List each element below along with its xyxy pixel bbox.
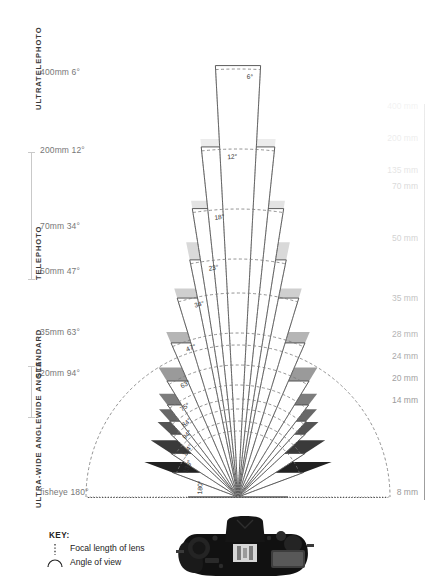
key-title: KEY: — [49, 531, 70, 540]
category-label: TELEPHOTO — [34, 226, 43, 280]
left-focal-label: 200mm 12° — [40, 145, 85, 155]
angle-of-view-diagram: 6°12°18°23°34°47°63°75°84°94°114°139°180… — [0, 0, 435, 586]
right-mm-label: 14 mm — [392, 395, 418, 405]
left-focal-label: 20mm 94° — [40, 368, 80, 378]
left-focal-label: 50mm 47° — [40, 266, 80, 276]
left-focal-label: 35mm 63° — [40, 327, 80, 337]
arc-icon — [47, 558, 63, 568]
right-mm-label: 135 mm — [387, 165, 418, 175]
key-label-focal-length: Focal length of lens — [70, 543, 145, 553]
right-axis-rule — [424, 104, 425, 500]
right-mm-label: 8 mm — [397, 487, 418, 497]
category-bracket — [31, 152, 32, 280]
right-mm-label: 200 mm — [387, 133, 418, 143]
right-mm-label: 50 mm — [392, 233, 418, 243]
infographic-root: 6°12°18°23°34°47°63°75°84°94°114°139°180… — [0, 0, 435, 586]
right-mm-label: 70 mm — [392, 181, 418, 191]
left-focal-label: 70mm 34° — [40, 221, 80, 231]
category-bracket — [31, 366, 32, 418]
right-mm-label: 35 mm — [392, 293, 418, 303]
right-mm-label: 400 mm — [387, 101, 418, 111]
category-label: ULTRATELEPHOTO — [34, 27, 43, 110]
angle-label: 12° — [227, 152, 238, 160]
angle-label: 18° — [214, 213, 225, 221]
right-mm-label: 28 mm — [392, 329, 418, 339]
right-mm-label: 20 mm — [392, 373, 418, 383]
left-focal-label: fisheye 180° — [40, 487, 89, 497]
category-label: ULTRA-WIDE ANGLE — [34, 418, 43, 508]
key-label-angle-of-view: Angle of view — [70, 557, 121, 567]
dotted-line-icon — [51, 544, 59, 555]
category-label: WIDE ANGLE — [34, 361, 43, 418]
right-mm-label: 24 mm — [392, 351, 418, 361]
left-focal-label: 400mm 6° — [40, 67, 80, 77]
dslr-camera-top-view — [175, 514, 315, 586]
angle-label: 180° — [196, 480, 203, 494]
angle-label: 6° — [247, 73, 254, 80]
